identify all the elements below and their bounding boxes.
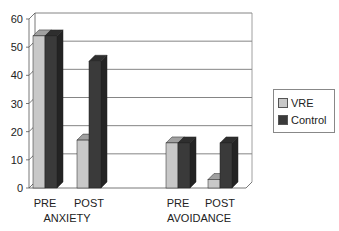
bar-side [101, 55, 107, 188]
x-tick-label: POST [205, 197, 235, 209]
y-tick-label: 60 [11, 13, 23, 25]
y-tick-label: 10 [11, 154, 23, 166]
legend-label-control: Control [291, 114, 326, 126]
floor-edge [246, 182, 252, 188]
bar-side [190, 137, 196, 188]
legend-label-vre: VRE [291, 97, 314, 109]
bar-vre [208, 180, 220, 188]
axis-depth-line [29, 13, 35, 19]
bar-control [220, 143, 232, 188]
bar-control [45, 36, 57, 188]
legend-swatch-control [278, 115, 288, 125]
bar-vre [77, 140, 89, 188]
legend-item-control: Control [278, 114, 326, 126]
bar-side [232, 137, 238, 188]
bar-control [178, 143, 190, 188]
legend-item-vre: VRE [278, 97, 314, 109]
x-tick-label: POST [74, 197, 104, 209]
y-tick-label: 50 [11, 41, 23, 53]
legend-swatch-vre [278, 98, 288, 108]
x-group-label: AVOIDANCE [167, 212, 231, 224]
chart-legend: VRE Control [273, 89, 335, 133]
x-tick-label: PRE [167, 197, 190, 209]
y-tick-label: 0 [17, 182, 23, 194]
bar-side [57, 30, 63, 188]
bar-vre [166, 143, 178, 188]
y-tick-label: 30 [11, 98, 23, 110]
y-tick-label: 20 [11, 126, 23, 138]
bar-control [89, 61, 101, 188]
y-tick-label: 40 [11, 69, 23, 81]
x-tick-label: PRE [34, 197, 57, 209]
bar-vre [33, 36, 45, 188]
x-group-label: ANXIETY [43, 212, 91, 224]
